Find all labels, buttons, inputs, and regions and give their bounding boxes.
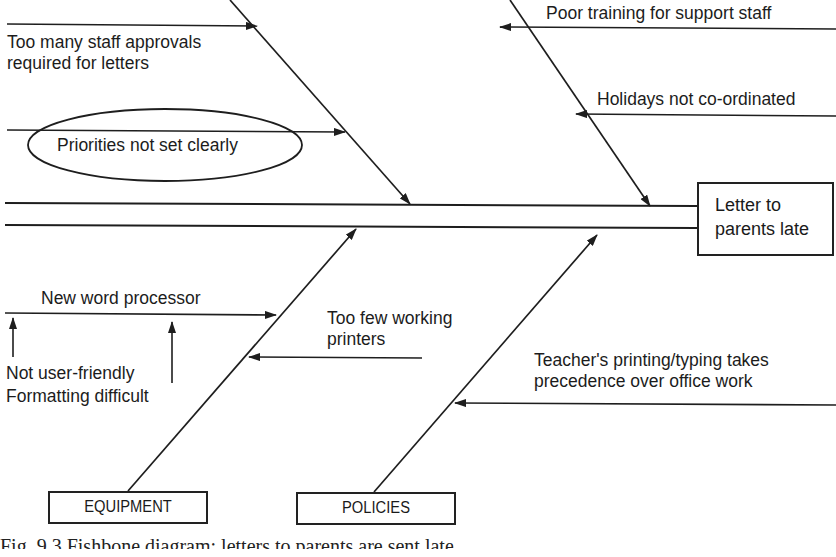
category-policies-label: POLICIES — [304, 499, 448, 517]
cause-line-2: printers — [327, 329, 452, 350]
cause-teacher-printing: Teacher's printing/typing takes preceden… — [534, 350, 769, 392]
category-equipment-label: EQUIPMENT — [56, 498, 200, 516]
effect-label: Letter to parents late — [715, 193, 809, 241]
effect-line-1: Letter to — [715, 193, 809, 217]
cause-too-few-printers: Too few working printers — [327, 308, 452, 350]
subcause-formatting-difficult: Formatting difficult — [6, 386, 149, 407]
cause-line-1: Too few working — [327, 308, 452, 329]
arrow-holidays — [576, 114, 836, 116]
cause-line-2: required for letters — [7, 53, 201, 74]
arrow-teacher-printing — [455, 403, 836, 405]
category-equipment-box: EQUIPMENT — [48, 491, 208, 524]
fishbone-lines — [0, 0, 836, 557]
spine-bottom-line — [5, 225, 697, 228]
cause-poor-training: Poor training for support staff — [546, 3, 771, 24]
cause-holidays: Holidays not co-ordinated — [597, 89, 795, 110]
arrow-too-few-printers — [249, 357, 422, 358]
cause-priorities-not-set: Priorities not set clearly — [57, 135, 238, 156]
arrow-poor-training — [500, 27, 836, 29]
cause-line-2: precedence over office work — [534, 371, 769, 392]
cause-too-many-approvals: Too many staff approvals required for le… — [7, 32, 201, 74]
bone-upper-left — [230, 0, 410, 204]
bone-equipment — [128, 229, 356, 491]
cause-line-1: Teacher's printing/typing takes — [534, 350, 769, 371]
category-policies-box: POLICIES — [296, 492, 456, 525]
effect-line-2: parents late — [715, 217, 809, 241]
cause-new-word-processor: New word processor — [41, 288, 201, 309]
arrow-too-many-approvals — [7, 24, 257, 26]
arrow-new-word-processor — [5, 313, 276, 315]
spine-top-line — [5, 203, 697, 206]
cause-line-1: Too many staff approvals — [7, 32, 201, 53]
subcause-not-user-friendly: Not user-friendly — [6, 363, 134, 384]
effect-box: Letter to parents late — [697, 182, 834, 256]
